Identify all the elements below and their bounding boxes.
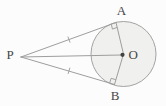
label-point-b: B [111,88,120,103]
diagram-canvas: P A B O [0,0,166,106]
label-point-p: P [6,47,13,62]
label-point-o: O [129,47,138,62]
geometry-diagram: P A B O [0,0,166,106]
center-point-dot [120,53,124,57]
label-point-a: A [117,3,127,18]
